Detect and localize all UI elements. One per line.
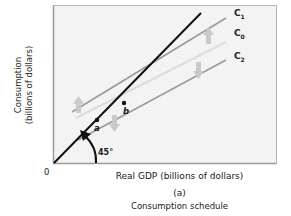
point-b bbox=[122, 101, 126, 105]
c1-label-name: C bbox=[234, 8, 241, 18]
c1-label: C1 bbox=[234, 8, 245, 20]
c0-label: C0 bbox=[234, 28, 245, 40]
c0-label-name: C bbox=[234, 28, 241, 38]
panel-label: (a) bbox=[0, 188, 291, 198]
consumption-diagram bbox=[0, 0, 291, 216]
point-b-label: b bbox=[123, 106, 129, 116]
point-a bbox=[95, 118, 99, 122]
point-a-label: a bbox=[94, 123, 100, 133]
angle-label: 45° bbox=[98, 148, 113, 157]
x-axis-label: Real GDP (billions of dollars) bbox=[0, 171, 291, 181]
figure-caption: Consumption schedule bbox=[0, 201, 291, 211]
y-axis-label-line2: (billions of dollars) bbox=[24, 15, 35, 155]
c2-label: C2 bbox=[234, 51, 245, 63]
c2-label-name: C bbox=[234, 51, 241, 61]
c1-label-subscript: 1 bbox=[241, 13, 245, 20]
y-axis-label-line1: Consumption bbox=[13, 15, 24, 155]
c0-label-subscript: 0 bbox=[241, 33, 245, 40]
c2-label-subscript: 2 bbox=[241, 56, 245, 63]
